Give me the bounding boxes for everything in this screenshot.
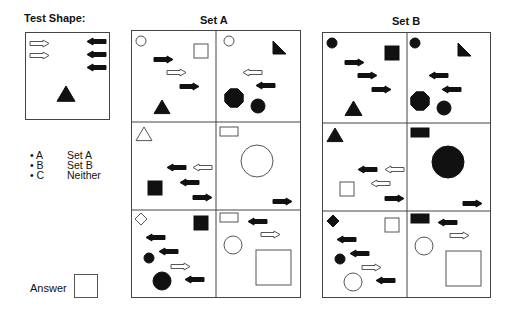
circle-icon <box>224 36 234 46</box>
arrow-right-icon <box>273 198 292 205</box>
answer-options: • A Set A • B Set B • C Neither <box>30 150 101 180</box>
arrow-right-icon <box>463 200 482 207</box>
octagon-icon <box>225 89 243 107</box>
arrow-right-icon <box>180 83 199 90</box>
triangle-icon <box>345 101 362 115</box>
option-c[interactable]: • C Neither <box>30 170 101 180</box>
rectangle-icon <box>411 128 429 137</box>
arrow-right-icon <box>167 69 186 76</box>
arrow-right-icon <box>154 56 173 63</box>
answer-label: Answer <box>30 282 67 294</box>
triangle-icon <box>57 86 75 101</box>
arrow-right-icon <box>372 86 391 93</box>
arrow-left-icon <box>358 166 377 173</box>
square-icon <box>340 182 354 196</box>
arrow-left-icon <box>350 250 369 257</box>
circle-icon <box>437 101 451 115</box>
rectangle-icon <box>220 213 238 222</box>
arrow-left-icon <box>256 82 275 89</box>
square-icon <box>194 44 208 58</box>
arrow-left-icon <box>180 179 199 186</box>
arrow-right-icon <box>358 72 377 79</box>
arrow-right-icon <box>385 195 404 202</box>
option-c-key: • C <box>30 170 67 180</box>
arrow-right-icon <box>30 40 49 47</box>
circle-icon <box>415 237 433 255</box>
arrow-left-icon <box>371 180 390 187</box>
triangle-icon <box>136 127 152 141</box>
circle-icon <box>344 273 362 291</box>
triangle-icon <box>327 128 343 142</box>
arrow-left-icon <box>385 166 404 173</box>
circle-icon <box>327 38 337 48</box>
arrow-right-icon <box>30 52 49 59</box>
circle-icon <box>144 253 154 263</box>
circle-icon <box>153 272 171 290</box>
square-icon <box>385 46 399 60</box>
arrow-left-icon <box>167 164 186 171</box>
option-c-label: Neither <box>67 170 101 180</box>
square-icon <box>385 218 399 232</box>
arrow-right-icon <box>193 194 212 201</box>
right-triangle-icon <box>458 43 471 56</box>
arrow-left-icon <box>193 164 212 171</box>
diamond-icon <box>135 213 147 225</box>
octagon-icon <box>411 92 429 110</box>
arrow-left-icon <box>438 219 457 226</box>
arrow-right-icon <box>171 263 190 270</box>
arrow-left-icon <box>376 277 395 284</box>
arrow-left-icon <box>87 51 106 58</box>
arrow-left-icon <box>248 218 267 225</box>
right-triangle-icon <box>273 41 286 54</box>
arrow-right-icon <box>345 59 364 66</box>
square-icon <box>256 250 291 285</box>
square-icon <box>194 216 208 230</box>
answer-input-box[interactable] <box>74 274 98 298</box>
circle-icon <box>335 254 345 264</box>
arrow-left-icon <box>146 234 165 241</box>
circle-icon <box>432 146 464 178</box>
circle-icon <box>251 99 265 113</box>
triangle-icon <box>154 100 170 114</box>
arrow-left-icon <box>243 69 262 76</box>
arrow-left-icon <box>429 72 448 79</box>
arrow-right-icon <box>362 264 381 271</box>
arrow-left-icon <box>159 248 178 255</box>
arrow-left-icon <box>87 38 106 45</box>
square-icon <box>446 251 481 286</box>
arrow-left-icon <box>442 86 461 93</box>
rectangle-icon <box>411 214 429 223</box>
circle-icon <box>241 145 273 177</box>
arrow-right-icon <box>450 232 469 239</box>
arrow-right-icon <box>261 231 280 238</box>
circle-icon <box>410 38 420 48</box>
arrow-left-icon <box>185 276 204 283</box>
rectangle-icon <box>220 127 238 136</box>
diamond-icon <box>327 215 339 227</box>
circle-icon <box>136 36 146 46</box>
arrow-left-icon <box>87 64 106 71</box>
circle-icon <box>224 236 242 254</box>
square-icon <box>148 181 162 195</box>
arrow-left-icon <box>337 236 356 243</box>
